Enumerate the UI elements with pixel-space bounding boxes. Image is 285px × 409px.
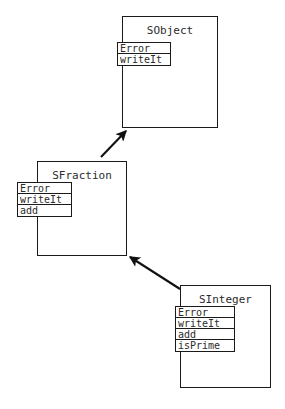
class-name-sfraction: SFraction	[38, 169, 126, 182]
method-list-sinteger[interactable]: Error writeIt add isPrime	[175, 306, 235, 352]
method-item[interactable]: writeIt	[176, 318, 234, 329]
method-item[interactable]: Error	[18, 183, 71, 194]
inheritance-arrow-sfraction-to-sobject	[101, 131, 126, 157]
class-name-sinteger: SInteger	[181, 293, 270, 306]
method-item[interactable]: isPrime	[176, 340, 234, 351]
class-diagram-canvas: SObject Error writeIt SFraction Error wr…	[0, 0, 285, 409]
method-item[interactable]: writeIt	[18, 194, 71, 205]
inheritance-arrow-sinteger-to-sfraction	[130, 257, 180, 289]
method-item[interactable]: Error	[176, 307, 234, 318]
class-name-sobject: SObject	[123, 24, 217, 37]
method-list-sobject[interactable]: Error writeIt	[117, 42, 171, 66]
method-item[interactable]: add	[176, 329, 234, 340]
class-box-sobject[interactable]: SObject	[122, 16, 218, 128]
method-item[interactable]: writeIt	[118, 54, 170, 65]
method-item[interactable]: add	[18, 205, 71, 216]
method-item[interactable]: Error	[118, 43, 170, 54]
method-list-sfraction[interactable]: Error writeIt add	[17, 182, 72, 217]
